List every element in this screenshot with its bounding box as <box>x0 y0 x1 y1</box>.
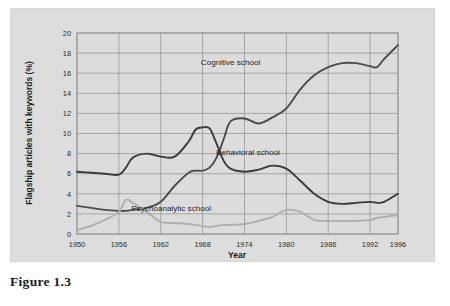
x-tick-label: 1986 <box>320 240 336 249</box>
y-tick-label: 8 <box>67 149 71 158</box>
x-tick-label: 1962 <box>153 240 169 249</box>
x-tick-label: 1956 <box>111 240 127 249</box>
figure-caption: Figure 1.3 <box>10 274 71 290</box>
y-tick-label: 20 <box>63 29 71 38</box>
x-axis-title: Year <box>228 250 247 260</box>
y-tick-label: 0 <box>67 230 71 239</box>
x-tick-label: 1992 <box>362 240 378 249</box>
y-tick-label: 16 <box>63 69 71 78</box>
x-tick-labels: 195019561962196819741980198619921996 <box>69 240 406 249</box>
y-tick-label: 2 <box>67 210 71 219</box>
y-tick-label: 10 <box>63 129 71 138</box>
y-tick-label: 6 <box>67 169 71 178</box>
series-annotation: Psychoanalytic school <box>131 204 211 213</box>
line-chart: 02468101214161820 1950195619621968197419… <box>10 8 435 262</box>
x-tick-label: 1980 <box>278 240 294 249</box>
figure-panel: 02468101214161820 1950195619621968197419… <box>10 8 435 262</box>
series-annotation: Cognitive school <box>201 58 261 67</box>
y-axis-title: Flagship articles with keywords (%) <box>24 61 34 205</box>
y-tick-label: 4 <box>67 190 71 199</box>
x-tick-label: 1968 <box>194 240 210 249</box>
x-tick-label: 1950 <box>69 240 85 249</box>
x-tick-label: 1974 <box>236 240 252 249</box>
y-tick-label: 14 <box>63 89 71 98</box>
x-tick-label: 1996 <box>390 240 406 249</box>
y-tick-labels: 02468101214161820 <box>63 29 71 239</box>
y-tick-label: 12 <box>63 109 71 118</box>
y-tick-label: 18 <box>63 49 71 58</box>
series-annotation: Behavioral school <box>216 148 280 157</box>
